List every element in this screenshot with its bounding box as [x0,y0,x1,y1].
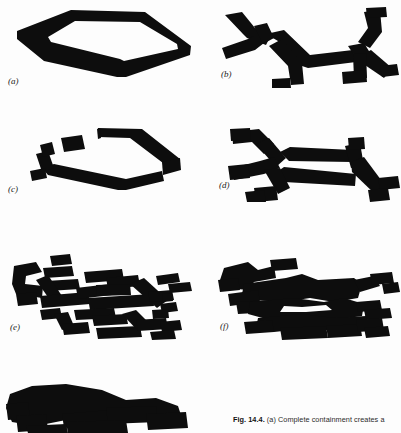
panel-e-artwork [10,248,200,340]
panel-g: (g) [6,378,196,433]
panel-label-a: (a) [8,76,19,86]
panel-c-artwork [14,118,194,198]
panel-label-f: (f) [220,321,229,331]
figure-page: (a) [0,0,401,433]
panel-label-b: (b) [221,69,232,79]
panel-label-c: (c) [8,184,18,194]
panel-label-e: (e) [10,322,20,332]
panel-b: (b) [214,6,400,88]
figure-number: Fig. 14.4. [233,415,265,424]
panel-label-d: (d) [219,180,230,190]
panel-e: (e) [10,248,200,340]
panel-f: (f) [214,250,400,342]
panel-b-artwork [214,6,400,88]
panel-g-artwork [6,378,196,433]
panel-f-artwork [214,250,400,342]
figure-caption-text: (a) Complete containment creates a [265,415,385,424]
panel-c: (c) [14,118,194,198]
panel-d-artwork [212,116,401,202]
panel-a-artwork [14,6,194,84]
panel-d: (d) [212,116,401,202]
figure-caption: Fig. 14.4. (a) Complete containment crea… [233,416,401,425]
panel-a: (a) [14,6,194,84]
